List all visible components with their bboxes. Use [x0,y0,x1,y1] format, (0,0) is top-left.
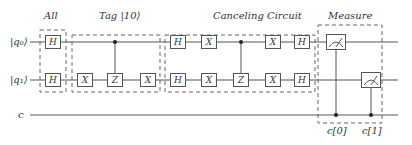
gate-x: X [201,73,217,87]
gate-h: H [294,73,310,87]
gate-z: Z [233,73,249,87]
section-label-measure: Measure [328,10,372,21]
measure-icon [361,72,381,88]
quantum-circuit-diagram: All Tag |10⟩ Canceling Circuit Measure |… [0,0,412,145]
qubit-label-q0: |q₀⟩ [10,36,28,47]
classical-bit-label-c1: c[1] [362,125,382,136]
measure-icon [326,34,346,50]
gate-x: X [201,35,217,49]
gate-h: H [170,73,186,87]
gate-h: H [45,73,61,87]
section-label-canceling: Canceling Circuit [213,10,302,21]
section-label-all: All [44,10,58,21]
gate-x: X [265,35,281,49]
gate-x: X [140,73,156,87]
gate-x: X [77,73,93,87]
gate-z: Z [107,73,123,87]
classical-label-c: c [18,109,24,120]
gate-x: X [265,73,281,87]
gate-h: H [45,35,61,49]
classical-bit-label-c0: c[0] [327,125,347,136]
gate-h: H [170,35,186,49]
section-label-tag: Tag |10⟩ [99,10,140,21]
qubit-label-q1: |q₁⟩ [10,74,28,85]
gate-h: H [294,35,310,49]
